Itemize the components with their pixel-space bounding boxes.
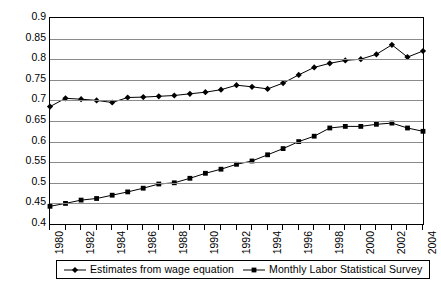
- x-axis-tick: [329, 225, 330, 230]
- legend-item[interactable]: Estimates from wage equation: [64, 264, 234, 275]
- y-axis-tick-label: 0.5: [1, 176, 46, 186]
- data-point-marker: [171, 92, 177, 98]
- x-axis-tick: [251, 225, 252, 230]
- x-axis-tick: [65, 225, 66, 230]
- x-axis-tick: [282, 225, 283, 230]
- data-point-marker: [312, 134, 317, 139]
- data-point-marker: [156, 93, 162, 99]
- x-axis-tick-label: 2000: [365, 231, 376, 254]
- data-point-marker: [296, 72, 302, 78]
- x-axis-tick-label: 1994: [272, 231, 283, 254]
- data-point-marker: [405, 126, 410, 131]
- x-axis-tick: [173, 225, 174, 230]
- data-point-marker: [79, 198, 84, 203]
- x-axis-tick: [406, 225, 407, 230]
- legend-item[interactable]: Monthly Labor Statistical Survey: [243, 264, 422, 275]
- gridline: [50, 183, 423, 184]
- chart-legend: Estimates from wage equationMonthly Labo…: [56, 260, 430, 279]
- gridline: [50, 121, 423, 122]
- data-point-marker: [374, 122, 379, 127]
- x-axis-tick-label: 1996: [303, 231, 314, 254]
- data-point-marker: [358, 124, 363, 129]
- data-point-marker: [373, 51, 379, 57]
- x-axis-tick: [220, 225, 221, 230]
- data-point-marker: [420, 48, 426, 54]
- x-axis-tick: [422, 225, 423, 230]
- data-point-marker: [94, 196, 99, 201]
- data-point-marker: [343, 124, 348, 129]
- y-axis-tick-label: 0.75: [1, 73, 46, 83]
- data-point-marker: [218, 87, 224, 93]
- x-axis-tick-label: 2004: [427, 231, 438, 254]
- data-point-marker: [327, 126, 332, 131]
- x-axis-tick-label: 1980: [54, 231, 65, 254]
- x-axis-tick: [49, 225, 50, 230]
- data-point-marker: [110, 193, 115, 198]
- x-axis-tick-label: 1992: [241, 231, 252, 254]
- x-axis-tick-label: 2002: [396, 231, 407, 254]
- x-axis-tick: [158, 225, 159, 230]
- x-axis-tick: [111, 225, 112, 230]
- x-axis-ticks: [49, 225, 424, 230]
- y-axis-tick-label: 0.85: [1, 32, 46, 42]
- gridline: [50, 80, 423, 81]
- y-axis-tick-label: 0.45: [1, 196, 46, 206]
- square-marker-icon: [243, 265, 265, 275]
- x-axis-tick-label: 1982: [85, 231, 96, 254]
- line-chart: 0.40.450.50.550.60.650.70.750.80.850.9 1…: [0, 0, 441, 288]
- x-axis-tick-label: 1988: [178, 231, 189, 254]
- data-point-marker: [265, 86, 271, 92]
- data-point-marker: [265, 152, 270, 157]
- legend-label: Monthly Labor Statistical Survey: [269, 264, 422, 275]
- x-axis-tick: [127, 225, 128, 230]
- x-axis-tick: [391, 225, 392, 230]
- y-axis-tick-label: 0.55: [1, 155, 46, 165]
- data-point-marker: [203, 171, 208, 176]
- data-point-marker: [187, 91, 193, 97]
- x-axis-tick: [204, 225, 205, 230]
- y-axis-tick-label: 0.6: [1, 135, 46, 145]
- x-axis-tick: [267, 225, 268, 230]
- data-point-marker: [125, 190, 130, 195]
- data-point-marker: [249, 84, 255, 90]
- gridline: [50, 100, 423, 101]
- y-axis-tick-label: 0.65: [1, 114, 46, 124]
- data-point-marker: [188, 176, 193, 181]
- x-axis-tick: [80, 225, 81, 230]
- gridline: [50, 59, 423, 60]
- data-point-marker: [233, 82, 239, 88]
- x-axis-tick: [344, 225, 345, 230]
- diamond-marker-icon: [64, 265, 86, 275]
- data-point-marker: [141, 186, 146, 191]
- legend-label: Estimates from wage equation: [90, 264, 234, 275]
- y-axis-tick-label: 0.7: [1, 93, 46, 103]
- gridline: [50, 142, 423, 143]
- series-line: [50, 45, 423, 107]
- x-axis-tick: [96, 225, 97, 230]
- data-point-marker: [421, 129, 426, 134]
- data-point-marker: [311, 64, 317, 70]
- x-axis-tick: [189, 225, 190, 230]
- y-axis-tick-label: 0.4: [1, 217, 46, 227]
- gridline: [50, 203, 423, 204]
- plot-area: [49, 17, 424, 225]
- x-axis-tick-label: 1986: [147, 231, 158, 254]
- data-point-marker: [219, 167, 224, 172]
- y-axis-tick-label: 0.8: [1, 52, 46, 62]
- data-point-marker: [327, 60, 333, 66]
- y-axis: 0.40.450.50.550.60.650.70.750.80.850.9: [0, 0, 46, 240]
- x-axis-tick-label: 1984: [116, 231, 127, 254]
- x-axis-tick: [375, 225, 376, 230]
- gridline: [50, 162, 423, 163]
- y-axis-tick-label: 0.9: [1, 11, 46, 21]
- x-axis-tick-label: 1990: [209, 231, 220, 254]
- data-point-marker: [281, 146, 286, 151]
- x-axis-tick-label: 1998: [334, 231, 345, 254]
- x-axis-tick: [313, 225, 314, 230]
- x-axis-tick: [236, 225, 237, 230]
- x-axis-tick: [360, 225, 361, 230]
- data-point-marker: [202, 89, 208, 95]
- data-point-marker: [48, 204, 53, 209]
- gridline: [50, 39, 423, 40]
- x-axis-tick: [298, 225, 299, 230]
